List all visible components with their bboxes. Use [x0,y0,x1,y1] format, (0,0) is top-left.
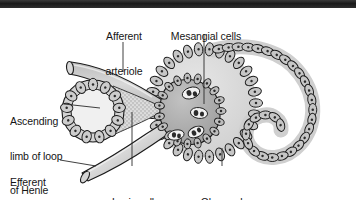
label-mesangial-cells: Mesangial cells [166,8,246,66]
top-bar [0,0,356,8]
label-lacis-cell: Lacis cell [102,174,164,200]
label-glomerulus: Glomerulus [192,174,262,200]
label-ascending-limb-line1: Ascending [10,116,80,128]
label-lacis-cell-line1: Lacis cell [102,197,164,200]
label-afferent-arteriole-line2: arteriole [92,66,156,78]
label-afferent-arteriole-line1: Afferent [92,31,156,43]
label-glomerulus-line1: Glomerulus [192,197,262,200]
label-afferent-arteriole: Afferent arteriole [92,8,156,100]
label-efferent-arteriole-line1: Efferent [10,177,70,189]
label-mesangial-cells-line1: Mesangial cells [166,31,246,43]
label-efferent-arteriole: Efferent arteriole [10,154,70,200]
figure-page: Afferent arteriole Mesangial cells Ascen… [0,0,356,200]
